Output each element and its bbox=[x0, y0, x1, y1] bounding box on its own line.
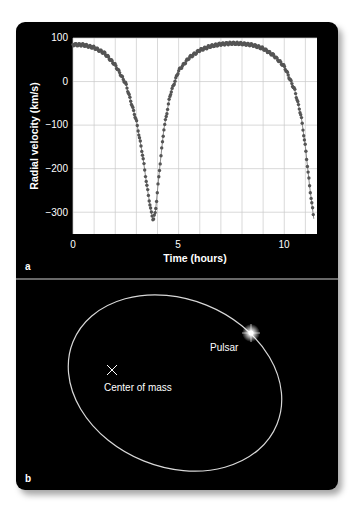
center-of-mass-cross-icon bbox=[107, 365, 117, 375]
y-tick-0: 0 bbox=[62, 76, 68, 87]
y-axis-title: Radial velocity (km/s) bbox=[28, 82, 40, 189]
y-tick-minus-100: −100 bbox=[45, 119, 68, 130]
y-tick-minus-200: −200 bbox=[45, 163, 68, 174]
pulsar-glow-icon bbox=[242, 324, 260, 342]
x-tick-0: 0 bbox=[70, 239, 76, 250]
panel-a: 100 0 −100 −200 −300 0 5 10 Time (hours)… bbox=[25, 32, 317, 272]
pulsar-label: Pulsar bbox=[210, 342, 239, 353]
orbit-ellipse bbox=[42, 264, 309, 502]
panel-label-b: b bbox=[25, 473, 31, 484]
panel-label-a: a bbox=[25, 261, 31, 272]
figure-svg: 100 0 −100 −200 −300 0 5 10 Time (hours)… bbox=[0, 0, 359, 523]
plot-area bbox=[73, 38, 317, 234]
x-axis-title: Time (hours) bbox=[163, 252, 226, 264]
y-tick-minus-300: −300 bbox=[45, 207, 68, 218]
x-tick-10: 10 bbox=[278, 239, 290, 250]
x-tick-5: 5 bbox=[175, 239, 181, 250]
panel-b: Center of mass Pulsar b bbox=[25, 264, 308, 502]
center-of-mass-label: Center of mass bbox=[104, 382, 172, 393]
y-tick-100: 100 bbox=[51, 32, 68, 43]
